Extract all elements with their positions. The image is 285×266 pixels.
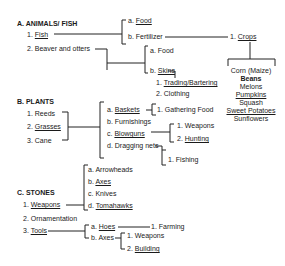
stones-item-ornamentation: 2. Ornamentation bbox=[23, 215, 77, 223]
tool-axes: b. Axes bbox=[91, 234, 114, 242]
crop-item: Squash bbox=[211, 99, 285, 107]
axes-use-weapons: 1. Weapons bbox=[127, 232, 164, 240]
weapon-knives: c. Knives bbox=[88, 190, 116, 198]
crop-item: Sweet Potatoes bbox=[211, 107, 285, 115]
blowguns-use-hunting: 2. Hunting bbox=[177, 135, 209, 143]
crop-item: Melons bbox=[211, 83, 285, 91]
baskets-use-gathering: 1. Gathering Food bbox=[157, 106, 213, 114]
tool-hoes: a. Hoes bbox=[91, 223, 115, 231]
weapon-arrowheads: a. Arrowheads bbox=[88, 166, 133, 174]
plants-use-baskets: a. Baskets bbox=[107, 106, 140, 114]
fish-use-food: a. Food bbox=[128, 17, 152, 25]
beaver-use-food: a. Food bbox=[150, 47, 174, 55]
crops-list: Corn (Maize) Beans Melons Pumpkins Squas… bbox=[211, 67, 285, 123]
weapon-axes: b. Axes bbox=[88, 178, 111, 186]
beaver-use-skins: b. Skins bbox=[150, 67, 175, 75]
crop-item: Pumpkins bbox=[211, 91, 285, 99]
weapon-tomahawks: d. Tomahawks bbox=[88, 202, 133, 210]
plants-use-furnishings: b. Furnishings bbox=[107, 118, 151, 126]
skins-use-clothing: 2. Clothing bbox=[156, 90, 189, 98]
crop-item: Beans bbox=[211, 75, 285, 83]
fish-use-fertilizer: b. Fertilizer bbox=[128, 33, 163, 41]
section-heading-plants: B. PLANTS bbox=[17, 98, 54, 106]
stones-item-weapons: 1. Weapons bbox=[23, 201, 60, 209]
plants-use-blowguns: c. Blowguns bbox=[107, 130, 145, 138]
axes-use-building: 2. Building bbox=[127, 245, 160, 253]
plants-item-grasses: 2. Grasses bbox=[27, 123, 61, 131]
hoes-use-farming: 1. Farming bbox=[151, 223, 184, 231]
section-heading-stones: C. STONES bbox=[17, 189, 55, 197]
blowguns-use-weapons: 1. Weapons bbox=[177, 122, 214, 130]
stones-item-tools: 3. Tools bbox=[23, 227, 47, 235]
plants-item-cane: 3. Cane bbox=[27, 137, 52, 145]
section-heading-animals: A. ANIMALS/ FISH bbox=[17, 20, 77, 28]
plants-item-reeds: 1. Reeds bbox=[27, 110, 55, 118]
skins-use-trading: 1. Trading/Bartering bbox=[156, 79, 218, 87]
fertilizer-use-crops: 1. Crops bbox=[230, 33, 256, 41]
crop-item: Corn (Maize) bbox=[211, 67, 285, 75]
plants-use-dragging-nets: d. Dragging nets bbox=[107, 142, 158, 150]
animals-item-fish: 1. Fish bbox=[27, 31, 48, 39]
nets-use-fishing: 1. Fishing bbox=[168, 156, 198, 164]
crop-item: Sunflowers bbox=[211, 115, 285, 123]
animals-item-beaver: 2. Beaver and otters bbox=[27, 45, 90, 53]
